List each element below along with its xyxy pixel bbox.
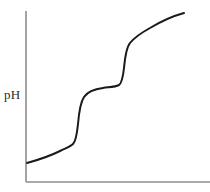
titration-chart-figure: pH xyxy=(0,0,210,192)
titration-curve-path xyxy=(27,13,184,163)
y-axis-label: pH xyxy=(4,87,20,103)
chart-canvas xyxy=(0,0,210,192)
